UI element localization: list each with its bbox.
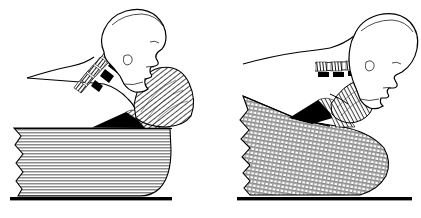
- back-contour-right: [243, 48, 330, 64]
- panel-right-wedge-pillow: [237, 14, 418, 201]
- vertebra-c5: [88, 65, 100, 77]
- disc-4: [91, 80, 103, 92]
- panel-left-thick-pillow: [10, 9, 194, 200]
- disc-r2: [333, 72, 344, 77]
- right-head-profile: [349, 14, 418, 109]
- thick-pillow: [14, 128, 172, 196]
- disc-1: [100, 69, 114, 83]
- vertebra-c7-right: [316, 62, 327, 71]
- figure-canvas: [0, 0, 421, 218]
- anatomy-comparison-figure: [0, 0, 421, 218]
- back-contour: [27, 57, 94, 78]
- left-baseline-bar: [10, 197, 172, 200]
- vertebra-c6-right: [331, 62, 342, 71]
- right-baseline-bar: [237, 197, 412, 200]
- head-outline-right: [349, 14, 418, 109]
- disc-r1: [318, 72, 329, 77]
- thick-pillow-fill: [14, 128, 171, 196]
